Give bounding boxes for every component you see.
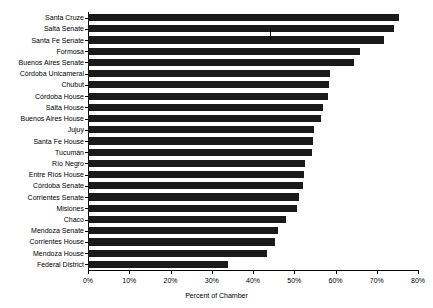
- category-label: Formosa: [56, 48, 84, 55]
- bar-row: [88, 236, 418, 247]
- bar-row: [88, 124, 418, 135]
- bar: [88, 238, 275, 245]
- bar: [88, 81, 329, 88]
- bar: [88, 160, 305, 167]
- bar-row: [88, 91, 418, 102]
- category-label: Tucumán: [55, 149, 84, 156]
- category-label: Salta House: [46, 104, 84, 111]
- category-label: Buenos Aires Senate: [19, 59, 84, 66]
- bar: [88, 126, 314, 133]
- x-axis-tick: [377, 270, 378, 274]
- x-axis-tick: [294, 270, 295, 274]
- x-axis-tick-label: 50%: [287, 276, 301, 285]
- y-axis-tick: [85, 29, 88, 30]
- bar-row: [88, 225, 418, 236]
- x-axis-tick-label: 10%: [122, 276, 136, 285]
- category-label: Santa Fe House: [33, 138, 84, 145]
- y-axis-tick: [85, 40, 88, 41]
- y-axis-tick: [85, 85, 88, 86]
- y-axis-tick: [85, 62, 88, 63]
- category-label: Santa Cruze: [45, 14, 84, 21]
- bar: [88, 205, 297, 212]
- y-axis-tick: [85, 107, 88, 108]
- bar: [88, 227, 278, 234]
- plot-area: [88, 12, 418, 270]
- y-axis-tick: [85, 163, 88, 164]
- marker-notch-icon: [270, 29, 271, 40]
- category-label: Córdoba Senate: [33, 182, 84, 189]
- x-axis-tick-label: 20%: [163, 276, 177, 285]
- y-axis-tick: [85, 175, 88, 176]
- y-axis-tick: [85, 141, 88, 142]
- x-axis-tick-label: 30%: [205, 276, 219, 285]
- y-axis-tick: [85, 220, 88, 221]
- x-axis-tick: [418, 270, 419, 274]
- bar: [88, 193, 299, 200]
- bar-row: [88, 135, 418, 146]
- category-label: Córdoba Unicameral: [20, 70, 84, 77]
- category-label: Córdoba House: [35, 93, 84, 100]
- bar-row: [88, 79, 418, 90]
- bar: [88, 104, 323, 111]
- category-label: Salta Senate: [44, 25, 84, 32]
- bar-row: [88, 158, 418, 169]
- x-axis-tick: [88, 270, 89, 274]
- y-axis-tick: [85, 208, 88, 209]
- x-axis-tick-label: 40%: [246, 276, 260, 285]
- bar-chart: Santa CruzeSalta SenateSanta Fe SenateFo…: [0, 0, 433, 308]
- bar-row: [88, 191, 418, 202]
- y-axis-tick: [85, 242, 88, 243]
- x-axis-tick: [253, 270, 254, 274]
- bar: [88, 48, 360, 55]
- y-axis-tick: [85, 264, 88, 265]
- category-label: Río Negro: [52, 160, 84, 167]
- bar-row: [88, 12, 418, 23]
- category-label: Mendoza House: [33, 250, 84, 257]
- bar-row: [88, 147, 418, 158]
- category-label: Corrientes House: [30, 238, 84, 245]
- bar: [88, 36, 384, 43]
- y-axis-tick: [85, 253, 88, 254]
- y-axis-tick: [85, 18, 88, 19]
- bar: [88, 261, 228, 268]
- y-axis-tick: [85, 51, 88, 52]
- bar: [88, 14, 399, 21]
- y-axis-tick: [85, 231, 88, 232]
- category-label: Misiones: [56, 205, 84, 212]
- bar-row: [88, 180, 418, 191]
- bar-row: [88, 34, 418, 45]
- x-axis-tick: [171, 270, 172, 274]
- bar-row: [88, 169, 418, 180]
- bar: [88, 59, 354, 66]
- y-axis-tick: [85, 152, 88, 153]
- bar-row: [88, 203, 418, 214]
- bar: [88, 216, 286, 223]
- y-axis-tick: [85, 197, 88, 198]
- bar-row: [88, 57, 418, 68]
- bar-row: [88, 113, 418, 124]
- bar: [88, 149, 312, 156]
- category-label: Mendoza Senate: [31, 227, 84, 234]
- x-axis-tick: [129, 270, 130, 274]
- category-label: Jujuy: [68, 126, 84, 133]
- bar-row: [88, 68, 418, 79]
- y-axis-tick: [85, 130, 88, 131]
- y-axis-tick: [85, 74, 88, 75]
- bar: [88, 25, 394, 32]
- x-axis-tick-label: 70%: [370, 276, 384, 285]
- x-axis-tick: [212, 270, 213, 274]
- bar: [88, 250, 267, 257]
- bar-row: [88, 46, 418, 57]
- category-label: Santa Fe Senate: [31, 37, 84, 44]
- y-axis-tick: [85, 186, 88, 187]
- category-label: Federal District: [37, 261, 84, 268]
- x-axis-tick: [336, 270, 337, 274]
- category-label: Chubut: [61, 81, 84, 88]
- bar: [88, 115, 321, 122]
- bar: [88, 182, 303, 189]
- bar-row: [88, 23, 418, 34]
- bar-row: [88, 214, 418, 225]
- y-axis-tick: [85, 96, 88, 97]
- bar-row: [88, 248, 418, 259]
- bar: [88, 171, 304, 178]
